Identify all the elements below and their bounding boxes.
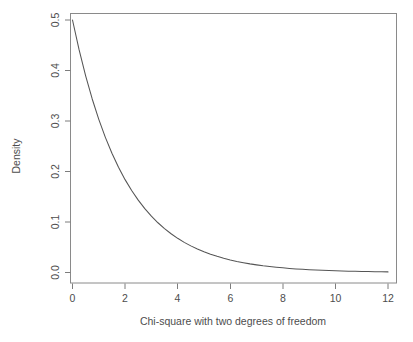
x-tick-label-6: 12: [382, 292, 394, 304]
chart-canvas: 0.0 0.1 0.2 0.3 0.4 0.5 0 2 4 6 8 10 12: [0, 0, 413, 342]
y-tick-label-4: 0.4: [49, 63, 61, 78]
y-tick-label-0: 0.0: [49, 265, 61, 280]
x-tick-label-1: 2: [122, 292, 128, 304]
y-tick-label-2: 0.2: [49, 164, 61, 179]
x-tick-label-3: 6: [228, 292, 234, 304]
y-axis-title: Density: [10, 138, 22, 174]
chart-figure: 0.0 0.1 0.2 0.3 0.4 0.5 0 2 4 6 8 10 12: [0, 0, 413, 342]
y-tick-label-1: 0.1: [49, 215, 61, 230]
x-axis-title: Chi-square with two degrees of freedom: [140, 315, 326, 327]
x-tick-label-5: 10: [330, 292, 342, 304]
y-tick-label-5: 0.5: [49, 13, 61, 28]
x-tick-label-4: 8: [280, 292, 286, 304]
y-tick-label-3: 0.3: [49, 114, 61, 129]
x-tick-label-0: 0: [70, 292, 76, 304]
x-tick-label-2: 4: [175, 292, 181, 304]
plot-background: [0, 0, 413, 342]
